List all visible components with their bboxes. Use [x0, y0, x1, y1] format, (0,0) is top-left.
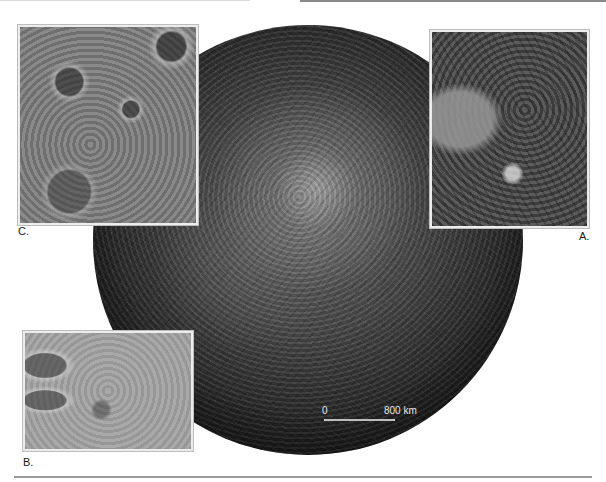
inset-image-c	[18, 25, 198, 225]
inset-label-c: C.	[18, 226, 29, 237]
inset-label-b: B.	[23, 457, 33, 468]
inset-image-a	[430, 30, 589, 228]
inset-label-a: A.	[579, 231, 589, 242]
scale-bar-start-label: 0	[322, 405, 328, 416]
top-divider-left	[0, 0, 250, 1]
inset-a-plains-surface	[432, 32, 587, 226]
scale-bar	[324, 419, 395, 421]
inset-c-cratered-surface	[20, 27, 196, 223]
inset-image-b	[23, 331, 193, 451]
inset-b-smooth-surface	[25, 333, 191, 449]
top-divider-right	[300, 0, 606, 2]
bottom-divider	[14, 476, 592, 478]
scale-bar-end-label: 800 km	[384, 405, 417, 416]
